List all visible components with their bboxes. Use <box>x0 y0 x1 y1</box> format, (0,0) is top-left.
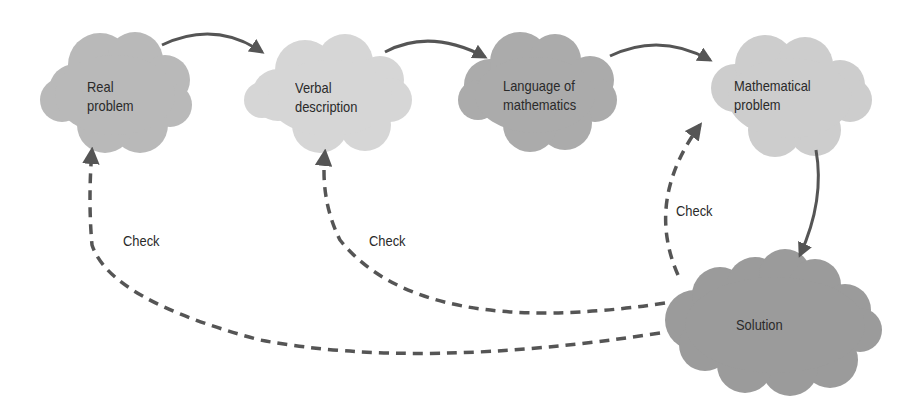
node-label-mathematical-problem: Mathematical problem <box>734 76 811 114</box>
arrow-real-to-verbal <box>162 34 262 52</box>
modeling-cycle-diagram: Real problem Verbal description Language… <box>0 0 907 408</box>
node-label-solution: Solution <box>736 315 783 334</box>
arrow-math-to-solution <box>800 150 818 255</box>
node-label-language-of-mathematics: Language of mathematics <box>503 76 576 114</box>
arrow-verbal-to-language <box>385 41 485 57</box>
arrow-language-to-math <box>610 45 710 60</box>
diagram-graphics <box>0 0 907 408</box>
node-label-verbal-description: Verbal description <box>295 78 357 116</box>
check-label-math: Check <box>676 201 713 220</box>
node-label-real-problem: Real problem <box>87 77 134 115</box>
check-arrow-solution-to-real <box>90 150 660 353</box>
check-arrow-solution-to-math <box>666 125 700 275</box>
check-label-real: Check <box>123 231 160 250</box>
check-label-verbal: Check <box>369 231 406 250</box>
